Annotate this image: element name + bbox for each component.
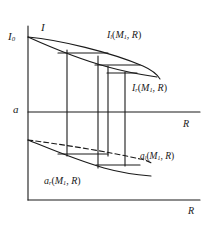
I0-sub: 0 xyxy=(12,35,15,42)
figure-canvas: I I0 a R R Il(M1, R) Ir(M1, R) al(M1, R)… xyxy=(0,0,208,227)
diagram-svg xyxy=(0,0,208,227)
curve-label-close-paren: ) xyxy=(77,175,80,186)
y-axis-label: I xyxy=(41,22,45,33)
upper-left-curve-label: Il(M1, R) xyxy=(107,30,141,40)
curve-label-arg1: M xyxy=(55,175,63,186)
mid-axis-R-label: R xyxy=(183,119,189,129)
curve-label-close-paren: ) xyxy=(171,151,174,161)
upper-left-curve xyxy=(28,37,160,79)
lower-solid-curve-label: ar(M1, R) xyxy=(44,176,81,186)
upper-right-curve xyxy=(28,37,157,77)
lower-solid-curve xyxy=(28,140,151,176)
lower-dashed-curve xyxy=(28,140,153,164)
curve-label-close-paren: ) xyxy=(164,82,167,93)
lower-dashed-curve-label: al(M1, R) xyxy=(140,152,174,162)
curve-label-close-paren: ) xyxy=(138,29,141,40)
upper-right-curve-label: Ir(M1, R) xyxy=(132,83,167,93)
y-tick-label-I0: I0 xyxy=(8,31,15,43)
bottom-axis-R-label: R xyxy=(188,206,194,216)
curve-label-arg1: M xyxy=(115,29,123,40)
mid-axis-label-a: a xyxy=(13,104,19,115)
